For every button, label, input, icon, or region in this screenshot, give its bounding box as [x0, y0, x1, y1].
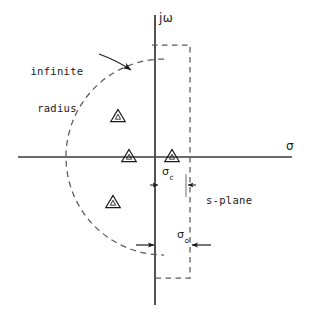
- sigma-o-symbol: σ: [177, 228, 184, 241]
- infinite-radius-line-1: infinite: [18, 65, 96, 77]
- infinite-radius-leader-line: [99, 54, 131, 70]
- s-plane-label: s-plane: [206, 194, 252, 206]
- pole-marker-lower-left: [106, 196, 120, 208]
- pole-marker-upper-left: [111, 110, 125, 122]
- jomega-axis-label: jω: [159, 11, 173, 25]
- sigma-o-label: σo: [177, 228, 189, 243]
- sigma-o-subscript: o: [184, 236, 189, 245]
- sigma-axis-label: σ: [286, 139, 294, 153]
- sigma-c-subscript: c: [169, 173, 173, 182]
- infinite-radius-label: infinite radius: [18, 40, 96, 139]
- pole-marker-axis-left: [122, 150, 136, 162]
- infinite-radius-line-2: radius: [18, 102, 96, 114]
- s-plane-figure: infinite radius jω σ s-plane σc σo: [0, 0, 309, 319]
- pole-marker-axis-right: [165, 150, 179, 162]
- sigma-c-symbol: σ: [162, 165, 169, 178]
- sigma-c-label: σc: [162, 165, 173, 180]
